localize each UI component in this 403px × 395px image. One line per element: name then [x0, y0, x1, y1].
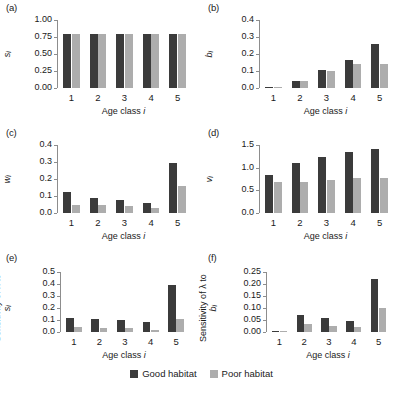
y-axis-label-symbol: w: [2, 177, 12, 184]
y-tick-mark: [54, 213, 57, 214]
x-tick-label: 4: [341, 336, 366, 347]
bar-good-habitat: [371, 279, 378, 332]
bar-good-habitat: [117, 320, 125, 332]
x-tick-label: 3: [313, 92, 340, 103]
x-tick-label: 5: [366, 336, 391, 347]
y-tick-label: 0.3: [26, 157, 52, 166]
y-tick-label-wrap: 1.0: [228, 163, 254, 172]
bar-poor-habitat: [274, 87, 282, 88]
y-tick-label-wrap: 0.0: [26, 208, 52, 217]
y-tick-label: 0.2: [26, 174, 52, 183]
legend-swatch-good-icon: [130, 370, 138, 378]
x-tick-label: 2: [287, 217, 314, 228]
y-axis-label-symbol: s: [2, 53, 12, 58]
bar-group: [317, 272, 342, 332]
y-axis-label-subscript: i: [207, 176, 214, 178]
y-tick-mark: [256, 213, 259, 214]
bar-group: [111, 145, 138, 213]
y-tick-label-wrap: 0.25: [235, 267, 261, 276]
bar-poor-habitat: [100, 328, 108, 332]
y-tick-label-wrap: 0.00: [235, 327, 261, 336]
bar-good-habitat: [143, 322, 151, 332]
x-axis-label-index-symbol: i: [345, 106, 347, 116]
bar-poor-habitat: [151, 330, 159, 332]
y-tick-mark: [57, 332, 60, 333]
bar-group: [138, 272, 164, 332]
bar-group: [267, 272, 292, 332]
plot-area-e: [61, 272, 189, 332]
y-tick-mark: [54, 20, 57, 21]
bar-group: [313, 20, 340, 88]
bar-good-habitat: [292, 81, 300, 88]
bar-poor-habitat: [125, 328, 133, 332]
y-tick-mark: [57, 284, 60, 285]
y-tick-label-wrap: 0.2: [228, 49, 254, 58]
y-tick-label: 0.00: [26, 83, 52, 92]
bar-good-habitat: [63, 192, 71, 213]
y-tick-mark: [263, 296, 266, 297]
x-axis-label-c: Age class i: [57, 231, 190, 241]
y-tick-label: 0.20: [235, 279, 261, 288]
bar-good-habitat: [90, 198, 98, 213]
y-tick-mark: [54, 196, 57, 197]
plot-area-b: [260, 20, 393, 88]
y-tick-mark: [54, 179, 57, 180]
bar-poor-habitat: [151, 208, 159, 213]
y-tick-label-wrap: 0.10: [235, 303, 261, 312]
y-tick-mark: [263, 320, 266, 321]
y-tick-mark: [54, 145, 57, 146]
bar-group: [366, 20, 393, 88]
bar-poor-habitat: [327, 180, 335, 213]
y-tick-label: 0.15: [235, 291, 261, 300]
y-tick-label: 0.5: [29, 267, 55, 276]
bar-group: [260, 145, 287, 213]
bar-group: [340, 20, 367, 88]
bar-poor-habitat: [380, 64, 388, 88]
y-tick-label: 0.1: [26, 191, 52, 200]
y-tick-mark: [256, 88, 259, 89]
x-axis-label-e: Age class i: [60, 350, 188, 360]
x-axis-label-index-symbol: i: [143, 231, 145, 241]
bar-poor-habitat: [274, 182, 282, 213]
y-tick-label-wrap: 0.2: [29, 303, 55, 312]
y-tick-mark: [256, 145, 259, 146]
y-tick-label-wrap: 0.4: [228, 15, 254, 24]
bar-poor-habitat: [329, 326, 336, 332]
y-tick-label-wrap: 0.15: [235, 291, 261, 300]
y-axis-label-e: Sensitivity of λ to si: [0, 272, 14, 344]
bar-group: [138, 20, 165, 88]
y-axis-label-subscript: i: [5, 51, 12, 53]
x-axis-label-a: Age class i: [57, 106, 190, 116]
y-tick-mark: [256, 71, 259, 72]
x-tick-label: 1: [58, 217, 85, 228]
bar-group: [366, 272, 391, 332]
bar-group: [366, 145, 393, 213]
x-tick-label: 3: [111, 217, 138, 228]
bar-group: [111, 20, 138, 88]
y-tick-label-wrap: 0.3: [26, 157, 52, 166]
legend-item-poor-habitat: Poor habitat: [210, 368, 273, 379]
x-tick-label: 3: [317, 336, 342, 347]
y-tick-label: 0.10: [235, 303, 261, 312]
x-axis-label-text: Age class: [306, 350, 348, 360]
y-tick-label: 0.4: [29, 279, 55, 288]
bar-good-habitat: [265, 175, 273, 213]
y-tick-label: 0.4: [228, 15, 254, 24]
y-tick-label-wrap: 0.20: [235, 279, 261, 288]
bar-group: [61, 272, 87, 332]
y-tick-label: 0.0: [228, 208, 254, 217]
bar-poor-habitat: [300, 182, 308, 213]
y-tick-label-wrap: 0.75: [26, 32, 52, 41]
y-tick-label-wrap: 0.4: [26, 140, 52, 149]
bar-group: [341, 272, 366, 332]
y-tick-label-wrap: 1.00: [26, 15, 52, 24]
bar-group: [287, 20, 314, 88]
x-tick-label: 4: [138, 336, 164, 347]
x-tick-label: 2: [292, 336, 317, 347]
bar-good-habitat: [346, 321, 353, 332]
bar-poor-habitat: [353, 64, 361, 88]
bar-good-habitat: [116, 200, 124, 213]
y-tick-mark: [54, 162, 57, 163]
panel-tag-b: (b): [208, 2, 219, 13]
y-tick-label: 0.2: [228, 49, 254, 58]
